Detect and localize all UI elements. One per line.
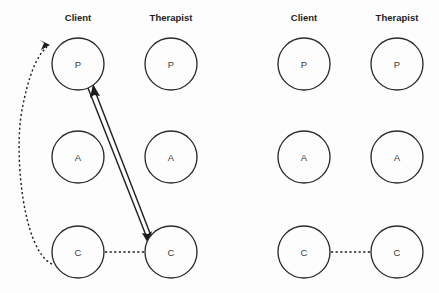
node-right-client-p[interactable]: P	[278, 38, 330, 90]
node-left-client-c[interactable]: C	[52, 226, 104, 278]
link-client-c-to-client-p-arrowhead	[40, 40, 50, 50]
node-left-therapist-p[interactable]: P	[145, 38, 197, 90]
node-letter: A	[168, 152, 175, 163]
right-panel: Client Therapist P P A	[278, 12, 423, 278]
node-letter: P	[394, 59, 400, 70]
link-client-c-to-client-p-curve	[19, 47, 52, 264]
node-letter: P	[75, 59, 81, 70]
node-letter: A	[301, 152, 308, 163]
node-letter: C	[394, 247, 401, 258]
node-left-client-p[interactable]: P	[52, 38, 104, 90]
node-letter: P	[168, 59, 174, 70]
node-letter: C	[168, 247, 175, 258]
left-panel-nodes: P P A A C	[52, 38, 197, 278]
right-panel-nodes: P P A A C	[278, 38, 423, 278]
node-letter: A	[394, 152, 401, 163]
transactional-analysis-diagram: Client Therapist P	[0, 0, 439, 293]
link-therapist-c-to-client-p	[95, 91, 153, 241]
left-panel-column-label-client: Client	[65, 12, 92, 23]
left-panel-column-label-therapist: Therapist	[150, 12, 194, 23]
node-right-therapist-a[interactable]: A	[371, 131, 423, 183]
right-panel-column-label-client: Client	[291, 12, 318, 23]
right-panel-column-label-therapist: Therapist	[376, 12, 420, 23]
node-letter: C	[75, 247, 82, 258]
node-left-therapist-c[interactable]: C	[145, 226, 197, 278]
diagram-canvas: Client Therapist P	[0, 0, 439, 293]
node-letter: A	[75, 152, 82, 163]
node-right-client-c[interactable]: C	[278, 226, 330, 278]
node-letter: C	[301, 247, 308, 258]
node-right-therapist-p[interactable]: P	[371, 38, 423, 90]
node-right-client-a[interactable]: A	[278, 131, 330, 183]
node-right-therapist-c[interactable]: C	[371, 226, 423, 278]
node-left-client-a[interactable]: A	[52, 131, 104, 183]
node-left-therapist-a[interactable]: A	[145, 131, 197, 183]
node-letter: P	[301, 59, 307, 70]
left-panel: Client Therapist P	[19, 12, 197, 278]
